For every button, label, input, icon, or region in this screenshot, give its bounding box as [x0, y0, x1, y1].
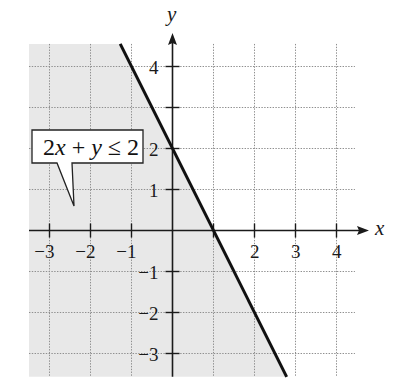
callout-part-plus: +	[66, 134, 92, 160]
x-tick-label: −1	[116, 241, 136, 262]
x-tick-label: 2	[250, 241, 260, 262]
y-axis-label: y	[165, 2, 177, 26]
shaded-region	[29, 44, 287, 377]
y-tick-label: −1	[138, 262, 158, 283]
callout-part-y: y	[89, 134, 102, 160]
x-tick-label: 3	[291, 241, 301, 262]
x-tick-label: 4	[332, 241, 342, 262]
x-axis-label: x	[374, 216, 385, 240]
y-tick-label: −3	[138, 344, 158, 365]
shaded-solution-region	[29, 44, 287, 377]
y-tick-label: 2	[149, 139, 159, 160]
inequality-graph: −3−2−1234421−1−2−3 2x + y ≤ 2 x y	[0, 0, 411, 387]
y-tick-label: −2	[138, 303, 158, 324]
x-tick-label: −3	[34, 241, 54, 262]
y-tick-label: 4	[149, 57, 159, 78]
y-tick-label: 1	[149, 180, 159, 201]
callout-part-x: x	[54, 134, 66, 160]
x-tick-label: −2	[75, 241, 95, 262]
callout-label: 2x + y ≤ 2	[43, 134, 139, 160]
callout-part-rhs: ≤ 2	[102, 134, 139, 160]
callout-part-coef: 2	[43, 134, 55, 160]
